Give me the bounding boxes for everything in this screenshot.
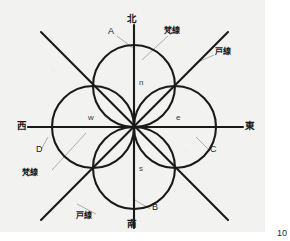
label-inner-w: w: [88, 114, 94, 122]
center-point: [132, 125, 136, 129]
label-east: 東: [245, 121, 255, 131]
label-west: 西: [17, 121, 27, 131]
label-north: 北: [127, 14, 137, 24]
page-number: 10: [277, 228, 287, 238]
leader-line-bonsen-top: [142, 36, 168, 60]
label-south: 南: [127, 219, 137, 229]
label-inner-s: s: [139, 165, 143, 173]
label-point-a: A: [108, 27, 114, 36]
annotation-bonsen-left: 梵線: [22, 169, 37, 177]
annotation-tosen-right: 戸線: [215, 48, 230, 56]
label-point-b: B: [152, 203, 158, 212]
label-point-d: D: [36, 145, 43, 154]
leader-line-bonsen-left: [52, 133, 86, 170]
label-point-c: C: [210, 145, 217, 154]
annotation-bonsen-top: 梵線: [164, 27, 179, 35]
diagram-canvas: [0, 0, 265, 232]
leader-line-c: [196, 137, 209, 150]
label-inner-n: n: [139, 79, 143, 87]
annotation-tosen-bottom: 戸線: [76, 212, 91, 220]
figure-panel: 北 東 南 西 A B C D n e s w 梵線 戸線 梵線 戸線: [0, 0, 265, 232]
label-inner-e: e: [176, 114, 180, 122]
